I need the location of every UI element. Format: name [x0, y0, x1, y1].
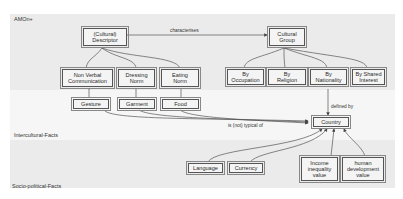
node-gesture: Gesture: [73, 99, 109, 109]
node-by-occupation: By Occupation: [227, 69, 264, 85]
node-non-verbal-communication: Non Verbal Communication: [62, 69, 113, 87]
node-dressing-norm: Dressing Norm: [118, 69, 155, 87]
node-income-inequality-value: Income inequality value: [301, 157, 338, 181]
node-cultural-group: Cultural Group: [269, 28, 305, 46]
edge-label-is-not-typical-of: is (not) typical of: [228, 123, 263, 128]
node-language: Language: [188, 163, 223, 173]
edge-descriptor-eating: [102, 48, 180, 68]
edge-label-characterises: characterises: [170, 28, 199, 33]
node-by-religion: By Religion: [268, 69, 306, 85]
node-currency: Currency: [229, 163, 263, 173]
edge-hdv-country: [344, 129, 365, 156]
node-human-development-value: human development value: [342, 157, 384, 181]
edge-group-religion: [284, 48, 285, 68]
node-eating-norm: Eating Norm: [161, 69, 199, 87]
edge-descriptor-nonverbal: [86, 48, 102, 68]
edge-group-nationality: [284, 48, 327, 68]
edge-gesture-country: [104, 110, 308, 121]
edge-income-country: [331, 129, 334, 156]
node-cultural-descriptor: (Cultural) Descriptor: [83, 28, 127, 46]
node-food: Food: [162, 99, 199, 109]
edge-descriptor-dressing: [102, 48, 136, 68]
node-country: Country: [313, 117, 349, 127]
node-garment: Garment: [119, 99, 155, 109]
node-by-nationality: By Nationality: [310, 69, 347, 85]
edge-group-occupation: [244, 48, 284, 68]
node-by-shared-interest: By Shared Interest: [352, 69, 385, 85]
edge-label-defined-by: defined by: [331, 104, 353, 109]
